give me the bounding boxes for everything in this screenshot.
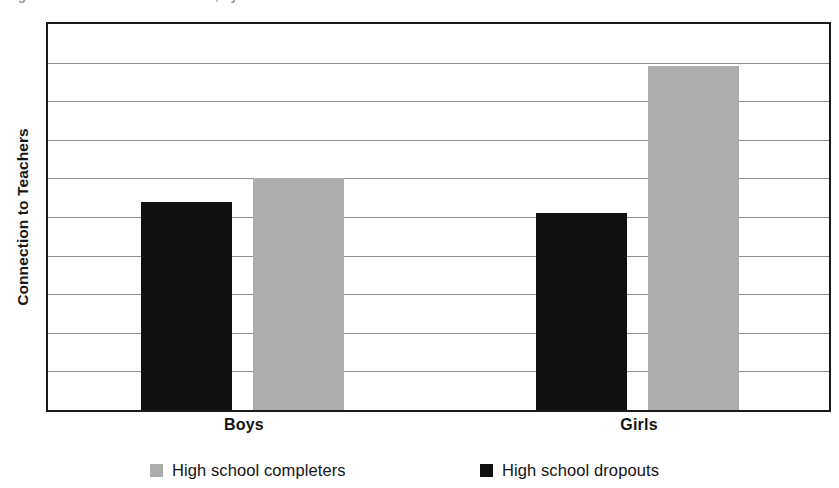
chart-legend: High school completersHigh school dropou… <box>46 458 831 486</box>
bar-boys-completers <box>253 178 344 410</box>
legend-item-completers[interactable]: High school completers <box>150 458 346 482</box>
legend-swatch-icon <box>150 464 163 477</box>
legend-item-dropouts[interactable]: High school dropouts <box>480 458 659 482</box>
category-label-girls: Girls <box>544 416 734 434</box>
plot-area <box>46 22 831 412</box>
clipped-caption-sliver: Figure 4. Connection to teachers, by sex <box>0 0 839 4</box>
category-label-boys: Boys <box>149 416 339 434</box>
legend-label: High school completers <box>172 461 346 480</box>
y-axis-title: Connection to Teachers <box>0 22 46 412</box>
bar-girls-dropouts <box>536 213 627 410</box>
clipped-caption-text: Figure 4. Connection to teachers, by sex <box>0 0 839 3</box>
legend-swatch-icon <box>480 464 493 477</box>
bar-boys-dropouts <box>141 202 232 410</box>
bar-girls-completers <box>648 66 739 410</box>
y-axis-title-label: Connection to Teachers <box>14 128 32 306</box>
bar-chart-figure: Figure 4. Connection to teachers, by sex… <box>0 0 839 488</box>
bars-layer <box>48 24 829 410</box>
legend-label: High school dropouts <box>502 461 659 480</box>
category-axis-labels: BoysGirls <box>46 416 831 446</box>
